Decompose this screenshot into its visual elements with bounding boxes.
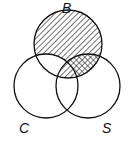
- label-b: B: [62, 0, 71, 16]
- label-c: C: [19, 120, 30, 136]
- label-s: S: [102, 120, 112, 136]
- venn-diagram: B C S: [0, 0, 131, 141]
